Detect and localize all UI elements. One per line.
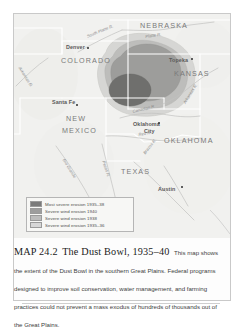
legend-row: Most severe erosion 1935–38 — [30, 201, 130, 208]
caption-number: MAP 24.2 — [14, 246, 58, 257]
legend-row: Severe wind erosion 1935–36 — [30, 222, 130, 229]
legend-label-most-severe-1935-38: Most severe erosion 1935–38 — [45, 202, 104, 207]
legend-row: Severe wind erosion 1940 — [30, 208, 130, 215]
figure-caption: MAP 24.2 The Dust Bowl, 1935–40 This map… — [14, 241, 226, 331]
legend-label-severe-1938: Severe wind erosion 1938 — [45, 216, 97, 221]
map-legend: Most severe erosion 1935–38 Severe wind … — [26, 197, 134, 232]
legend-label-severe-1940: Severe wind erosion 1940 — [45, 209, 97, 214]
caption-title: The Dust Bowl, 1935–40 — [62, 246, 169, 257]
caption-body: This map shows the extent of the Dust Bo… — [14, 249, 218, 328]
legend-swatch-severe-1935-36 — [30, 222, 42, 228]
caption-bottom-rule — [22, 303, 220, 304]
legend-label-severe-1935-36: Severe wind erosion 1935–36 — [45, 223, 104, 228]
legend-swatch-severe-1940 — [30, 208, 42, 214]
legend-swatch-severe-1938 — [30, 215, 42, 221]
legend-swatch-most-severe-1935-38 — [30, 201, 42, 207]
legend-row: Severe wind erosion 1938 — [30, 215, 130, 222]
dust-bowl-map: NEBRASKA COLORADO KANSAS NEW MEXICO OKLA… — [14, 14, 230, 238]
erosion-zone-core-1935-38 — [109, 74, 151, 106]
